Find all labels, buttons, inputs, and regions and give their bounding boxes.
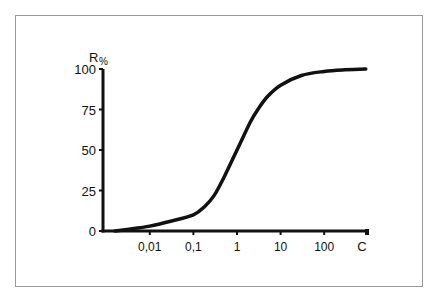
y-ticks: 0255075100 bbox=[74, 62, 103, 239]
chart: 0255075100 0,010,1110100 R % C bbox=[0, 0, 439, 303]
x-tick-label: 0,1 bbox=[185, 240, 202, 254]
x-axis-end-cap bbox=[365, 229, 369, 235]
x-tick-label: 10 bbox=[274, 240, 288, 254]
y-tick-label: 50 bbox=[82, 143, 96, 158]
y-tick-label: 25 bbox=[82, 184, 96, 199]
series bbox=[115, 69, 366, 231]
x-axis-label: C bbox=[357, 239, 366, 254]
y-axis-unit: % bbox=[99, 56, 108, 67]
y-tick-label: 75 bbox=[82, 103, 96, 118]
x-ticks: 0,010,1110100 bbox=[138, 231, 334, 254]
x-tick-label: 100 bbox=[314, 240, 334, 254]
x-tick-label: 1 bbox=[234, 240, 241, 254]
y-axis-label: R bbox=[89, 50, 98, 65]
y-tick-label: 0 bbox=[89, 224, 96, 239]
x-tick-label: 0,01 bbox=[138, 240, 162, 254]
series-line-r bbox=[115, 69, 366, 231]
